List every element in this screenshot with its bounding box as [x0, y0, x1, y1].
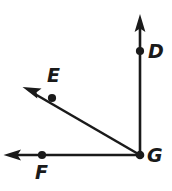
ray-gf [4, 149, 141, 160]
point-g-dot [136, 151, 145, 160]
point-f-dot [38, 151, 46, 159]
ray-ge [23, 87, 141, 155]
point-label-e: E [47, 66, 60, 85]
ray-gd [135, 14, 146, 155]
ray-ge-line [34, 94, 140, 156]
point-label-d: D [148, 42, 164, 61]
point-d-dot [136, 47, 144, 55]
point-e-dot [48, 94, 56, 102]
point-label-f: F [35, 163, 48, 182]
point-label-g: G [147, 146, 163, 165]
geometry-figure: D E F G [0, 0, 172, 191]
